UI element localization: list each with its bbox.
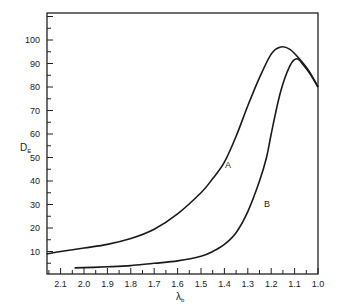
y-axis-label: DE xyxy=(20,142,31,154)
x-tick-label: 1.2 xyxy=(265,279,278,289)
y-tick-label: 60 xyxy=(30,129,40,139)
line-chart: 102030405060708090100 2.12.01.91.81.71.6… xyxy=(0,0,338,307)
y-tick-label: 90 xyxy=(30,59,40,69)
y-tick-label: 100 xyxy=(25,35,40,45)
x-tick-label: 1.9 xyxy=(101,279,114,289)
x-tick-label: 1.6 xyxy=(171,279,184,289)
x-axis-label: λb xyxy=(176,291,185,303)
x-tick-label: 1.0 xyxy=(312,279,325,289)
x-tick-label: 1.5 xyxy=(195,279,208,289)
curve-b xyxy=(75,59,318,268)
y-tick-label: 30 xyxy=(30,200,40,210)
curve-b-label: B xyxy=(264,199,270,209)
y-tick-label: 80 xyxy=(30,82,40,92)
curve-a-label: A xyxy=(225,160,231,170)
y-axis-ticks: 102030405060708090100 xyxy=(25,17,53,264)
y-tick-label: 40 xyxy=(30,176,40,186)
curve-a xyxy=(47,47,318,254)
plot-frame xyxy=(47,13,318,274)
y-tick-label: 20 xyxy=(30,223,40,233)
x-tick-label: 1.7 xyxy=(148,279,161,289)
x-tick-label: 1.8 xyxy=(125,279,138,289)
x-tick-label: 1.1 xyxy=(288,279,301,289)
x-tick-label: 2.0 xyxy=(78,279,91,289)
x-tick-label: 1.4 xyxy=(218,279,231,289)
x-tick-label: 1.3 xyxy=(242,279,255,289)
y-tick-label: 70 xyxy=(30,106,40,116)
x-tick-label: 2.1 xyxy=(54,279,67,289)
curves xyxy=(47,47,318,268)
x-axis-ticks: 2.12.01.91.81.71.61.51.41.31.21.11.0 xyxy=(49,268,324,289)
y-tick-label: 10 xyxy=(30,247,40,257)
y-tick-label: 50 xyxy=(30,153,40,163)
